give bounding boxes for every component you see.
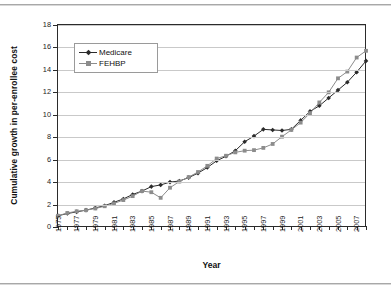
data-point [355,56,359,60]
gridline-horizontal [58,160,365,161]
data-point [233,150,237,154]
y-axis-tick [53,47,58,48]
x-axis-tick [179,226,180,230]
data-point [65,211,69,215]
legend-label-medicare: Medicare [99,49,132,57]
x-axis-tick-label: 1977 [73,216,80,232]
series-line-fehbp [58,51,366,216]
y-axis-tick-label: 14 [43,66,51,73]
legend-marker-square-icon [79,59,97,68]
x-axis-tick [329,226,330,230]
data-point [84,208,88,212]
x-axis-tick-label: 1979 [92,216,99,232]
data-point [140,189,144,193]
y-axis-tick-label: 0 [47,223,51,230]
chart-figure: Cumulative growth in per-enrollee cost 0… [0,8,391,280]
y-axis-tick [53,92,58,93]
top-divider-rule [0,4,391,5]
gridline-horizontal [58,115,365,116]
x-axis-tick-label: 1999 [278,216,285,232]
legend-label-fehbp: FEHBP [99,60,126,68]
x-axis-tick-label: 1991 [204,216,211,232]
x-axis-tick [123,226,124,230]
x-axis-tick-label: 1995 [241,216,248,232]
x-axis-tick [67,226,68,230]
data-point [261,146,265,150]
y-axis-tick [53,160,58,161]
y-axis-tick [53,205,58,206]
gridline-horizontal [58,92,365,93]
data-point [149,190,153,194]
data-point [289,128,293,132]
x-axis-tick [310,226,311,230]
x-axis-tick [235,226,236,230]
x-axis-title: Year [57,260,366,270]
data-point [93,207,97,211]
x-axis-tick [198,226,199,230]
bottom-divider-rule [0,283,391,284]
x-axis-tick-label: 2003 [316,216,323,232]
data-point [336,76,340,80]
legend-marker-diamond-icon [79,48,97,57]
y-axis-tick-label: 10 [43,111,51,118]
data-point [243,149,247,153]
y-axis-tick [53,115,58,116]
data-point [196,170,200,174]
x-axis-tick-label: 1997 [260,216,267,232]
x-axis-tick-label: 1993 [222,216,229,232]
y-axis-tick-label: 12 [43,89,51,96]
y-axis-tick-label: 4 [47,178,51,185]
data-point [149,184,154,189]
y-axis-tick-label: 16 [43,44,51,51]
gridline-horizontal [58,137,365,138]
data-point [159,196,163,200]
data-point [131,194,135,198]
y-axis-tick [53,25,58,26]
y-axis-tick-label: 8 [47,134,51,141]
x-axis-tick-label: 1989 [185,216,192,232]
x-axis-tick-label: 1985 [148,216,155,232]
data-point [299,121,303,125]
y-axis-title-text: Cumulative growth in per-enrollee cost [9,46,19,205]
x-axis-tick [273,226,274,230]
y-axis-tick-label: 6 [47,156,51,163]
x-axis-tick [347,226,348,230]
x-axis-tick-label: 1983 [129,216,136,232]
data-point [364,49,368,53]
x-axis-tick-label: 1975 [54,216,61,232]
data-point [158,183,163,188]
x-axis-tick-label: 2005 [334,216,341,232]
gridline-horizontal [58,205,365,206]
legend-item-medicare: Medicare [79,47,152,58]
data-point [187,175,191,179]
gridline-horizontal [58,182,365,183]
x-axis-tick [142,226,143,230]
data-point [205,164,209,168]
data-point [121,198,125,202]
y-axis-tick [53,137,58,138]
data-point [317,101,321,105]
gridline-horizontal [58,25,365,26]
data-point [270,128,275,133]
x-axis-tick-label: 1987 [166,216,173,232]
x-axis-tick-label: 2007 [353,216,360,232]
data-point [271,142,275,146]
x-axis-tick [161,226,162,230]
data-point [252,148,256,152]
y-axis-title: Cumulative growth in per-enrollee cost [8,24,20,227]
y-axis-tick-label: 18 [43,21,51,28]
x-axis-tick [254,226,255,230]
y-axis-tick [53,70,58,71]
data-point [280,128,285,133]
series-line-medicare [58,61,366,216]
x-axis-tick [217,226,218,230]
x-axis-tick [105,226,106,230]
y-axis-tick-label: 2 [47,201,51,208]
data-point [168,186,172,190]
x-axis-tick [366,226,367,230]
x-axis-tick-label: 2001 [297,216,304,232]
x-axis-tick [86,226,87,230]
x-axis-tick-label: 1981 [110,216,117,232]
y-axis-tick [53,182,58,183]
data-point [75,209,79,213]
